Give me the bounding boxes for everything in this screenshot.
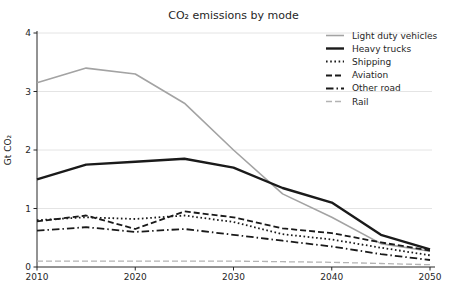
legend-item-light-duty-vehicles: Light duty vehicles: [325, 29, 437, 42]
legend-label: Other road: [352, 83, 401, 93]
series-line-rail: [37, 261, 430, 265]
legend-label: Light duty vehicles: [352, 31, 437, 41]
y-axis-label: Gt CO₂: [3, 104, 15, 196]
legend-label: Aviation: [352, 70, 388, 80]
x-tick-label: 2020: [124, 272, 147, 282]
legend-label: Rail: [352, 97, 369, 107]
legend-item-aviation: Aviation: [325, 69, 437, 82]
shipping-line-swatch-icon: [325, 56, 345, 67]
y-tick-label: 3: [25, 87, 31, 97]
x-tick-label: 2010: [26, 272, 49, 282]
x-tick-label: 2030: [222, 272, 245, 282]
y-tick-label: 2: [25, 145, 31, 155]
legend-label: Shipping: [352, 57, 391, 67]
x-tick-label: 2040: [320, 272, 343, 282]
legend-item-shipping: Shipping: [325, 55, 437, 68]
y-tick-label: 1: [25, 204, 31, 214]
series-line-aviation: [37, 211, 430, 250]
series-line-heavy-trucks: [37, 159, 430, 250]
legend: Light duty vehicles Heavy trucks Shippin…: [325, 29, 437, 108]
legend-item-other-road: Other road: [325, 82, 437, 95]
legend-item-rail: Rail: [325, 95, 437, 108]
legend-label: Heavy trucks: [352, 44, 411, 54]
x-tick-label: 2050: [419, 272, 442, 282]
legend-item-heavy-trucks: Heavy trucks: [325, 42, 437, 55]
series-line-other-road: [37, 227, 430, 260]
y-tick-label: 4: [25, 28, 31, 38]
other-road-line-swatch-icon: [325, 83, 345, 94]
aviation-line-swatch-icon: [325, 70, 345, 81]
y-tick-label: 0: [25, 262, 31, 272]
light-duty-vehicles-line-swatch-icon: [325, 30, 345, 41]
heavy-trucks-line-swatch-icon: [325, 43, 345, 54]
chart-figure: CO₂ emissions by mode 012342010202020302…: [0, 0, 449, 296]
rail-line-swatch-icon: [325, 96, 345, 107]
